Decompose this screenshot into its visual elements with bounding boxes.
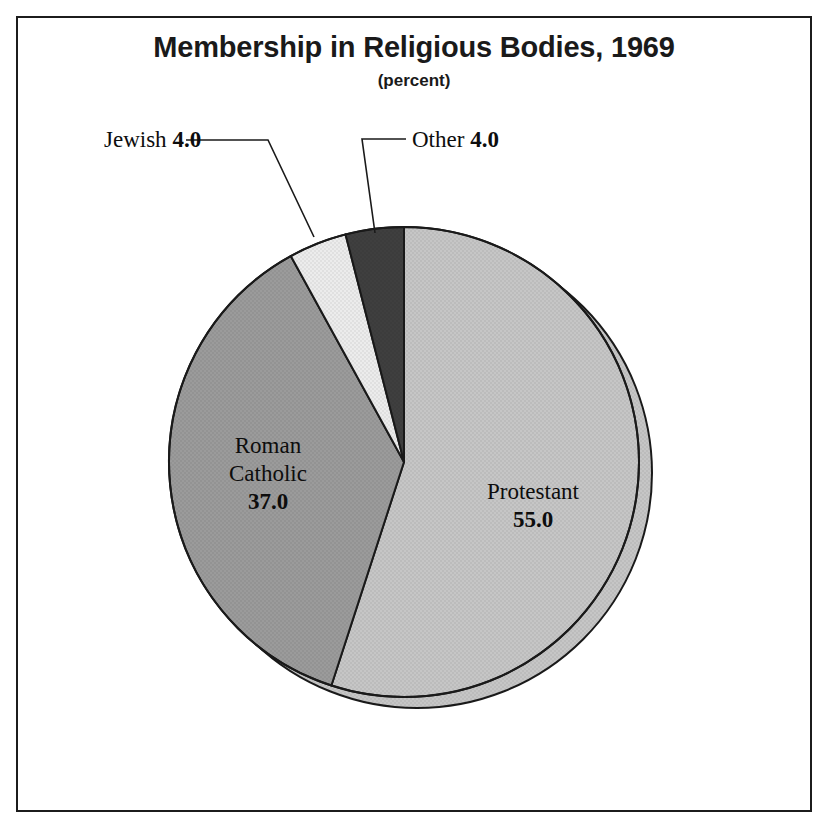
slice-label-jewish-name: Jewish xyxy=(104,127,167,152)
slice-label-other-name: Other xyxy=(412,127,464,152)
leader-line-other xyxy=(362,139,406,233)
slice-label-protestant: Protestant 55.0 xyxy=(438,478,628,534)
chart-figure: Membership in Religious Bodies, 1969 (pe… xyxy=(0,0,828,828)
slice-label-other-value: 4.0 xyxy=(470,127,499,152)
slice-label-jewish: Jewish 4.0 xyxy=(104,127,201,153)
leader-line-jewish xyxy=(186,140,314,237)
slice-label-roman-catholic-value: 37.0 xyxy=(168,488,368,516)
slice-label-jewish-value: 4.0 xyxy=(172,127,201,152)
slice-label-roman-catholic: Roman Catholic 37.0 xyxy=(168,432,368,516)
pie-chart xyxy=(0,0,828,828)
slice-label-protestant-name: Protestant xyxy=(438,478,628,506)
slice-label-roman-catholic-line2: Catholic xyxy=(168,460,368,488)
slice-label-roman-catholic-line1: Roman xyxy=(168,432,368,460)
slice-label-protestant-value: 55.0 xyxy=(438,506,628,534)
slice-label-other: Other 4.0 xyxy=(412,127,499,153)
